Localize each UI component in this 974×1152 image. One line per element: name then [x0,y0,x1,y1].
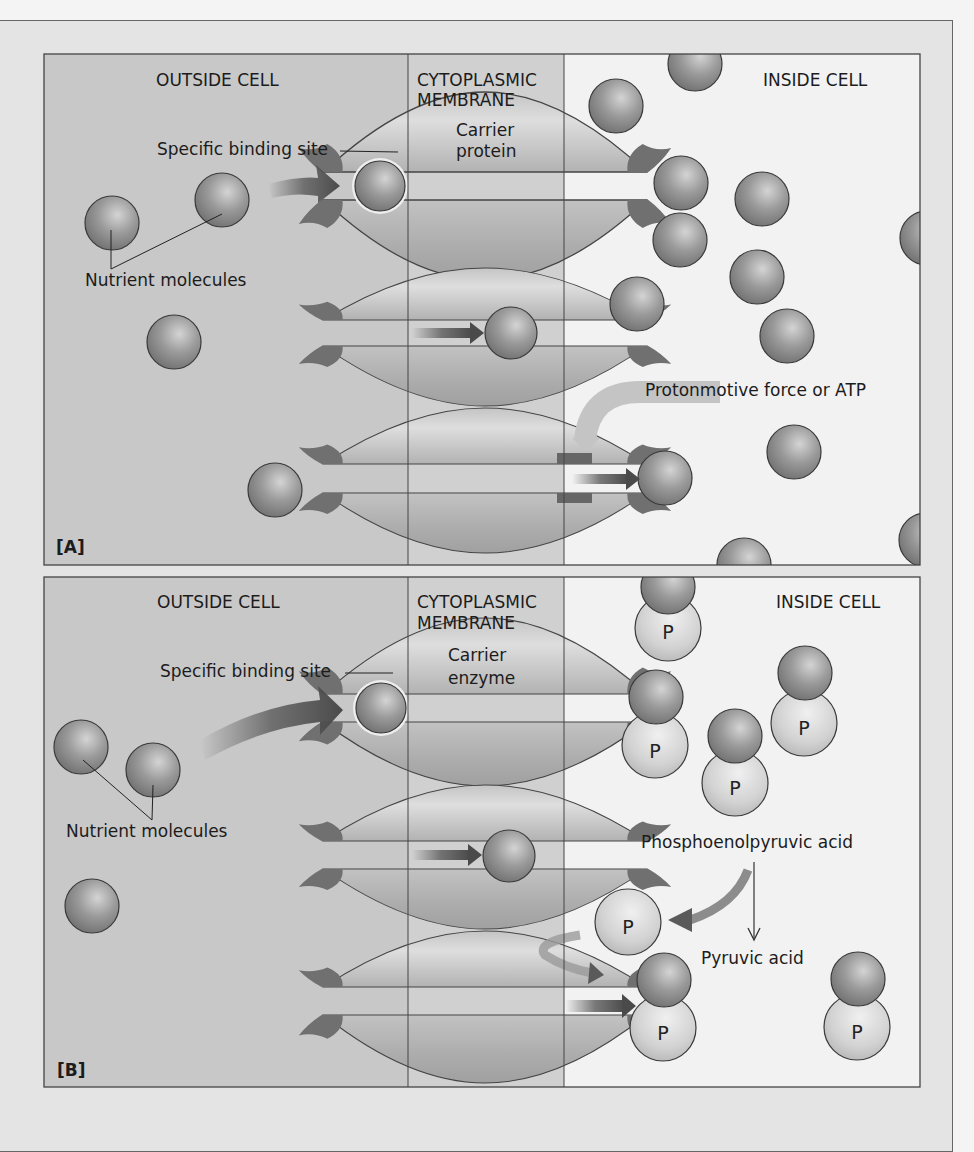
pyruvic-acid-label: Pyruvic acid [701,950,804,968]
nutrient-molecules-label: Nutrient molecules [66,823,227,841]
nutrient-molecule [610,277,664,331]
phosphorylated-nutrient: P [771,646,837,756]
svg-text:P: P [649,740,660,762]
phosphorylated-nutrient: P [635,560,701,661]
inside-cell-label: INSIDE CELL [763,72,867,90]
nutrient-molecule [760,309,814,363]
nutrient-molecule [54,720,108,774]
phosphorylated-nutrient: P [824,952,890,1060]
svg-text:P: P [851,1021,862,1043]
released-nutrient-molecule [638,451,692,505]
energy-site-bottom [557,493,592,503]
carrier-label-line2: enzyme [448,670,515,688]
binding-site-label: Specific binding site [157,141,328,159]
phosphorylated-nutrient: P [630,953,696,1061]
bound-nutrient-molecule [356,683,406,733]
svg-text:P: P [729,777,740,799]
svg-text:P: P [622,916,633,938]
outside-cell-label: OUTSIDE CELL [157,594,280,612]
pep-label: Phosphoenolpyruvic acid [641,834,853,852]
phosphate-group: P [595,889,661,955]
energy-source-label: Protonmotive force or ATP [645,382,866,400]
nutrient-molecule [653,213,707,267]
membrane-label-line2: MEMBRANE [417,92,515,110]
nutrient-molecule [85,196,139,250]
phosphorylated-nutrient: P [622,670,688,778]
nutrient-molecule [248,463,302,517]
svg-text:P: P [662,621,673,643]
nutrient-molecule [195,173,249,227]
nutrient-molecule [654,156,708,210]
nutrient-molecule [668,37,722,91]
membrane-label-line1: CYTOPLASMIC [417,72,537,90]
phosphorylated-nutrient: P [702,709,768,816]
carrier-label-line1: Carrier [448,647,506,665]
svg-text:P: P [798,717,809,739]
binding-site-label: Specific binding site [160,663,331,681]
nutrient-molecule [735,172,789,226]
bound-nutrient-molecule [355,161,405,211]
transiting-nutrient-molecule [485,307,537,359]
panel-a-label: [A] [56,539,85,557]
nutrient-molecule [65,879,119,933]
nutrient-molecule [147,315,201,369]
membrane-label-line2: MEMBRANE [417,615,515,633]
nutrient-molecule [767,425,821,479]
carrier-label-line2: protein [456,143,516,161]
nutrient-molecule [899,513,953,567]
transiting-nutrient-molecule [483,830,535,882]
membrane-label-line1: CYTOPLASMIC [417,594,537,612]
nutrient-molecule [730,250,784,304]
energy-site-top [557,453,592,464]
nutrient-molecules-label: Nutrient molecules [85,272,246,290]
nutrient-molecule [900,211,954,265]
outside-cell-label: OUTSIDE CELL [156,72,279,90]
panel-b-label: [B] [57,1062,86,1080]
carrier-label-line1: Carrier [456,122,514,140]
inside-cell-label: INSIDE CELL [776,594,880,612]
svg-text:P: P [657,1022,668,1044]
nutrient-molecule [589,79,643,133]
